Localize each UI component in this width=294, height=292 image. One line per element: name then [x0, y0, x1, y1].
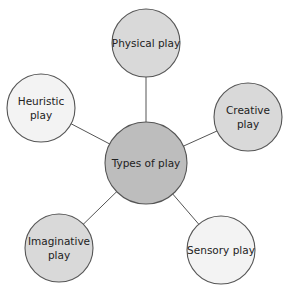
node-creative-circle [214, 83, 282, 151]
node-imaginative-label: Imaginative [28, 235, 90, 247]
node-creative-label: play [237, 118, 259, 130]
node-imaginative-circle [25, 214, 93, 282]
node-heuristic-label: Heuristic [18, 95, 65, 107]
node-creative: Creativeplay [214, 83, 282, 151]
center-node: Types of play [105, 122, 187, 204]
node-physical-label: Physical play [112, 37, 180, 49]
node-creative-label: Creative [226, 104, 270, 116]
types-of-play-diagram: Physical playCreativeplaySensory playIma… [0, 0, 294, 292]
node-heuristic-circle [7, 74, 75, 142]
node-heuristic: Heuristicplay [7, 74, 75, 142]
node-imaginative-label: play [48, 249, 70, 261]
node-sensory-label: Sensory play [187, 244, 255, 256]
node-physical: Physical play [112, 9, 180, 77]
node-sensory: Sensory play [187, 216, 255, 284]
node-heuristic-label: play [30, 109, 52, 121]
node-imaginative: Imaginativeplay [25, 214, 93, 282]
center-node-label: Types of play [111, 157, 181, 169]
